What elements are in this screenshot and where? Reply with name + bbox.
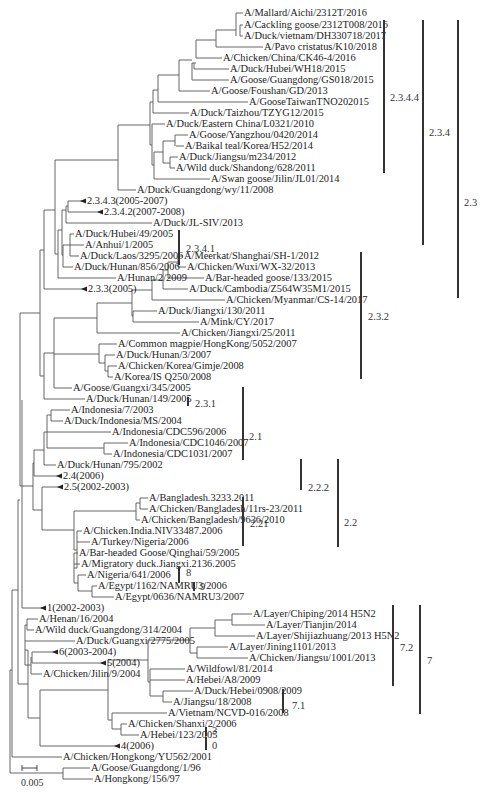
taxon-label: A/Bar-headed Goose/Qinghai/59/2005 (79, 547, 240, 558)
taxon-label: A/Duck/Guangxi/2775/2005 (76, 635, 195, 646)
taxon-label: A/Vietnam/NCVD-016/2008 (168, 707, 289, 718)
taxon-label: A/Henan/16/2004 (39, 613, 113, 624)
taxon-label: A/Duck/Eastern China/L0321/2010 (166, 118, 314, 129)
clade-bracket (187, 397, 189, 406)
clade-bracket (178, 230, 180, 265)
taxon-label: A/Duck/vietnam/DH330718/2017 (244, 30, 386, 41)
collapsed-clade-label: 5(2004) (107, 657, 140, 668)
collapsed-clade-label: 4(2006) (121, 740, 154, 751)
taxon-label: A/Duck/Taizhou/TZYG12/2015 (190, 107, 324, 118)
clade-bracket (337, 459, 339, 547)
clade-label: 2.21 (250, 518, 268, 529)
taxon-label: A/Chicken/Jiangsu/1001/2013 (249, 652, 375, 663)
clade-bracket (205, 737, 207, 750)
taxon-label: A/GooseTaiwanTNO202015 (249, 96, 369, 107)
taxon-label: A/Egypt/0636/NAMRU3/2007 (115, 591, 244, 602)
taxon-label: A/Duck/Jiangsu/m234/2012 (179, 151, 296, 162)
taxon-label: A/Chicken/Hongkong/YU562/2001 (63, 751, 212, 762)
clade-bracket (300, 459, 302, 490)
clade-label: 2.3.4 (429, 127, 450, 138)
taxon-label: A/Nigeria/641/2006 (87, 569, 171, 580)
clade-bracket (205, 727, 207, 736)
taxon-label: A/Chicken/China/CK46-4/2016 (223, 52, 356, 63)
taxon-label: A/Egypt/1162/NAMRU3/2006 (98, 580, 227, 591)
taxon-label: A/Wildfowl/81/2014 (186, 663, 273, 674)
taxon-label: A/Duck/Guangdong/wy/11/2008 (137, 184, 273, 195)
taxon-label: A/Chicken/Korea/Gimje/2008 (118, 360, 244, 371)
clade-label: 3 (212, 725, 217, 736)
taxon-label: A/Duck/Hunan/795/2002 (57, 459, 163, 470)
taxon-label: A/Hunan/2/2009 (117, 272, 187, 283)
taxon-label: A/Turkey/Nigeria/2006 (91, 536, 189, 547)
taxon-label: A/Wild duck/Guangdong/314/2004 (35, 624, 182, 635)
taxon-label: A/Layer/Chiping/2014 H5N2 (253, 608, 376, 619)
taxon-label: A/Mallard/Aichi/2312T/2016 (244, 7, 367, 18)
taxon-label: A/Chicken.India.NIV33487.2006 (83, 525, 222, 536)
taxon-label: A/Chicken/Myanmar/CS-14/2017 (226, 294, 367, 305)
taxon-label: A/Indonesia/CDC596/2006 (112, 426, 226, 437)
clade-bracket (457, 20, 459, 298)
clade-bracket (178, 567, 180, 583)
taxon-label: A/Hongkong/156/97 (94, 773, 180, 784)
taxon-label: A/Duck/Hunan/856/2006 (74, 261, 180, 272)
taxon-label: A/Goose/Guangxi/345/2005 (73, 382, 191, 393)
taxon-label: A/Duck/Indonesia/MS/2004 (64, 415, 182, 426)
clade-label: 8 (186, 567, 191, 578)
taxon-label: A/Mink/CY/2017 (200, 316, 274, 327)
collapsed-clade-label: 2.4(2006) (63, 470, 104, 481)
clade-label: 2.2 (344, 517, 357, 528)
clade-label: 2.3 (464, 197, 477, 208)
taxon-label: A/Goose/Yangzhou/0420/2014 (189, 129, 318, 140)
clade-bracket (360, 252, 362, 379)
clade-bracket (193, 582, 195, 591)
taxon-label: A/Common magpie/HongKong/5052/2007 (118, 338, 297, 349)
taxon-label: A/Chicken/Shanxi/2/2006 (128, 718, 237, 729)
collapsed-clade-label: 1(2002-2003) (47, 602, 104, 613)
clade-bracket (419, 605, 421, 714)
taxon-label: A/Duck/Hubei/49/2005 (75, 228, 173, 239)
clade-bracket (242, 497, 244, 546)
taxon-label: A/Chicken/Jilin/9/2004 (43, 668, 141, 679)
clade-label: 0 (212, 740, 217, 751)
taxon-label: A/Duck/Hunan/3/2007 (116, 349, 211, 360)
taxon-label: A/Korea/IS Q250/2008 (114, 371, 211, 382)
clade-label: 9 (200, 581, 205, 592)
taxon-label: A/Migratory duck.Jiangxi.2136.2005 (81, 558, 236, 569)
taxon-label: A/Chicken/Bangladesh/11rs-23/2011 (149, 503, 303, 514)
clade-label: 2.2.2 (308, 482, 329, 493)
taxon-label: A/Layer/Shijiazhuang/2013 H5N2 (256, 630, 399, 641)
collapsed-clade-label: 6(2003-2004) (59, 646, 116, 657)
taxon-label: A/Bangladesh.3233.2011 (149, 492, 254, 503)
taxon-label: A/Jiangsu/18/2008 (173, 696, 252, 707)
taxon-label: A/Pavo cristatus/K10/2018 (264, 41, 377, 52)
taxon-label: A/Chicken/Jiangxi/25/2011 (181, 327, 295, 338)
taxon-label: A/Indonesia/CDC1046/2007 (129, 437, 249, 448)
taxon-label: A/Duck/Hunan/149/2005 (86, 393, 192, 404)
taxon-label: A/Duck/JL-SIV/2013 (153, 217, 243, 228)
taxon-label: A/Chicken/Wuxi/WX-32/2013 (187, 261, 315, 272)
clade-bracket (383, 20, 385, 173)
clade-bracket (422, 20, 424, 245)
scale-bar-label: 0.005 (21, 777, 44, 788)
taxon-label: A/Swan goose/Jilin/JL01/2014 (211, 173, 339, 184)
taxon-label: A/Goose/Guangdong/GS018/2015 (230, 74, 374, 85)
clade-bracket (392, 605, 394, 686)
collapsed-clade-label: 2.3.3(2005) (88, 283, 136, 294)
collapsed-clade-label: 2.3.4.3(2005-2007) (87, 195, 168, 206)
clade-label: 2.3.2 (368, 311, 389, 322)
clade-label: 2.3.4.1 (186, 243, 215, 254)
taxon-label: A/Hebei/A8/2009 (186, 674, 260, 685)
clade-label: 7 (427, 655, 432, 666)
taxon-label: A/Duck/Jiangxi/130/2011 (158, 305, 266, 316)
clade-label: 7.2 (400, 642, 413, 653)
clade-label: 7.1 (292, 700, 305, 711)
clade-label: 2.3.4.4 (390, 92, 419, 103)
taxon-label: A/Duck/Hebei/0908/2009 (194, 685, 302, 696)
taxon-label: A/Cackling goose/2312T008/2016 (244, 19, 388, 30)
collapsed-clade-label: 2.3.4.2(2007-2008) (104, 206, 185, 217)
taxon-label: A/Goose/Guangdong/1/96 (91, 762, 201, 773)
taxon-label: A/Baikal teal/Korea/H52/2014 (185, 140, 313, 151)
taxon-label: A/Anhui/1/2005 (85, 239, 153, 250)
taxon-label: A/Indonesia/CDC1031/2007 (113, 448, 233, 459)
taxon-label: A/Layer/Jining1101/2013 (229, 641, 336, 652)
